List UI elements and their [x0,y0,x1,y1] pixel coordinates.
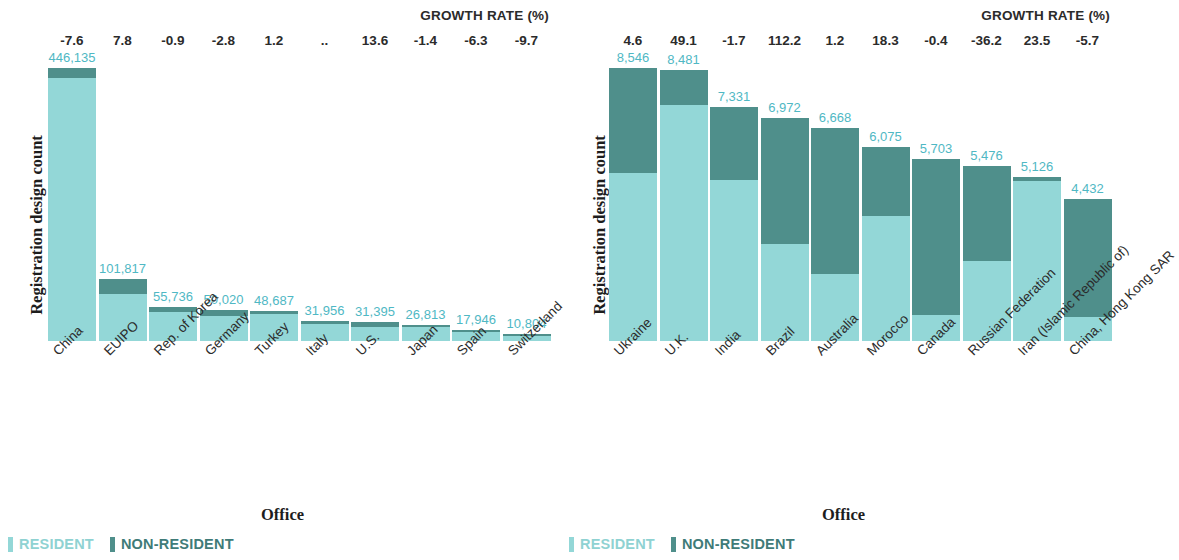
x-axis-title-left: Office [30,505,535,525]
bar-segment-resident [660,105,708,341]
chart-panel-left: GROWTH RATE (%) -7.67.8-0.9-2.81.2..13.6… [0,0,561,560]
growth-rate-value: -5.7 [1064,33,1112,48]
x-tick-labels-right: UkraineU.K.IndiaBrazilAustraliaMoroccoCa… [609,344,1114,494]
stacked-bar[interactable] [761,118,809,341]
y-axis-title-left: Registration design count [27,100,47,350]
bar-slot: 31,395 [351,60,399,341]
bar-segment-resident [710,180,758,341]
bar-segment-non-resident [710,107,758,180]
bar-slot: 26,813 [402,60,450,341]
growth-rate-row-left: -7.67.8-0.9-2.81.2..13.6-1.4-6.3-9.7 [48,33,553,55]
growth-rate-value: 13.6 [351,33,399,48]
legend-label-non-resident: NON-RESIDENT [682,536,795,552]
legend-swatch-resident-icon [569,537,574,552]
legend-item-resident-right: RESIDENT [569,536,655,552]
stacked-bar[interactable] [710,107,758,341]
growth-rate-value: -7.6 [48,33,96,48]
chart-panel-right: GROWTH RATE (%) 4.649.1-1.7112.21.218.3-… [561,0,1122,560]
bar-segment-non-resident [862,147,910,216]
bar-segment-non-resident [811,128,859,274]
stacked-bar[interactable] [660,70,708,341]
bar-slot: 6,972 [761,60,809,341]
legend-item-non-resident-left: NON-RESIDENT [110,536,234,552]
growth-rate-value: 49.1 [660,33,708,48]
bar-segment-non-resident [609,68,657,173]
growth-rate-value: 4.6 [609,33,657,48]
bar-segment-non-resident [761,118,809,243]
y-axis-title-right: Registration design count [590,100,610,350]
plot-area-left: 446,135101,81755,73650,02048,68731,95631… [48,60,553,341]
legend-right: RESIDENT NON-RESIDENT [569,536,795,552]
bar-slot: 8,546 [609,60,657,341]
stacked-bar[interactable] [48,68,96,341]
bar-slot: 446,135 [48,60,96,341]
growth-rate-value: -1.7 [710,33,758,48]
plot-area-right: 8,5468,4817,3316,9726,6686,0755,7035,476… [609,60,1114,341]
legend-item-resident-left: RESIDENT [8,536,94,552]
legend-item-non-resident-right: NON-RESIDENT [671,536,795,552]
bar-segment-non-resident [912,159,960,316]
growth-rate-value: 1.2 [250,33,298,48]
x-tick-labels-left: ChinaEUIPORep. of KoreaGermanyTurkeyItal… [48,344,553,494]
growth-rate-value: 7.8 [99,33,147,48]
legend-swatch-non-resident-icon [110,537,115,552]
growth-rate-value: -0.4 [912,33,960,48]
legend-label-non-resident: NON-RESIDENT [121,536,234,552]
bar-slot: 48,687 [250,60,298,341]
legend-swatch-resident-icon [8,537,13,552]
x-axis-title-right: Office [591,505,1096,525]
bar-segment-non-resident [963,166,1011,261]
stacked-bar[interactable] [609,68,657,341]
growth-rate-value: 1.2 [811,33,859,48]
growth-rate-value: 23.5 [1013,33,1061,48]
growth-rate-header-left: GROWTH RATE (%) [420,8,549,23]
growth-rate-value: -6.3 [452,33,500,48]
growth-rate-value: 18.3 [862,33,910,48]
bar-segment-non-resident [48,68,96,78]
bar-slot: 6,668 [811,60,859,341]
legend-label-resident: RESIDENT [19,536,94,552]
bar-segment-resident [48,78,96,341]
growth-rate-value: -1.4 [402,33,450,48]
growth-rate-value: -36.2 [963,33,1011,48]
bar-slot: 5,703 [912,60,960,341]
bar-slot: 31,956 [301,60,349,341]
legend-label-resident: RESIDENT [580,536,655,552]
bar-slot: 5,476 [963,60,1011,341]
growth-rate-value: -9.7 [503,33,551,48]
stacked-bar[interactable] [912,159,960,341]
bar-slot: 10,804 [503,60,551,341]
bar-slot: 6,075 [862,60,910,341]
stacked-bar[interactable] [811,128,859,341]
legend-left: RESIDENT NON-RESIDENT [8,536,234,552]
bar-value-label: 4,432 [1051,181,1125,196]
bar-segment-resident [609,173,657,341]
legend-swatch-non-resident-icon [671,537,676,552]
growth-rate-value: -0.9 [149,33,197,48]
growth-rate-value: -2.8 [200,33,248,48]
growth-rate-header-right: GROWTH RATE (%) [981,8,1110,23]
growth-rate-value: 112.2 [761,33,809,48]
bar-slot: 17,946 [452,60,500,341]
growth-rate-value: .. [301,33,349,48]
